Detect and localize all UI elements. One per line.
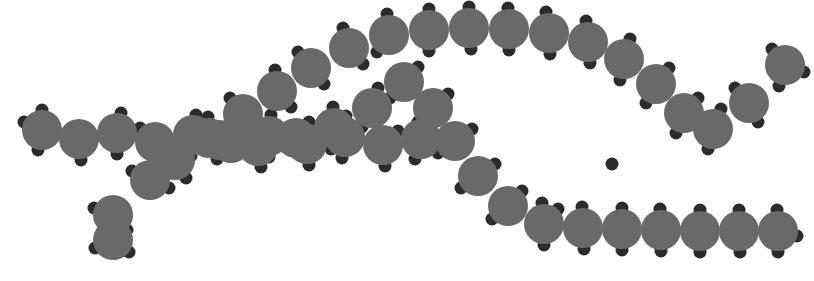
carbon-atom	[568, 22, 608, 62]
carbon-atom	[291, 48, 331, 88]
carbon-atom	[758, 211, 798, 251]
molecule-canvas	[0, 0, 814, 281]
molecular-model-svg	[0, 0, 814, 281]
carbon-atom	[729, 83, 769, 123]
carbon-atom	[719, 211, 759, 251]
carbon-atom	[636, 64, 676, 104]
carbon-atom	[449, 8, 489, 48]
carbon-atom	[97, 113, 137, 153]
hydrogen-atom	[606, 158, 619, 171]
carbon-atom	[93, 220, 133, 260]
carbon-atom	[155, 140, 195, 180]
carbon-atom	[604, 39, 644, 79]
carbon-atom	[641, 210, 681, 250]
carbon-atom	[524, 204, 564, 244]
carbon-atom	[363, 125, 403, 165]
carbon-atom	[529, 13, 569, 53]
carbon-atom	[59, 119, 99, 159]
carbon-atom	[458, 156, 498, 196]
carbon-atom	[563, 208, 603, 248]
carbon-atom	[238, 126, 278, 166]
carbon-atom	[369, 15, 409, 55]
carbon-atom	[352, 88, 392, 128]
carbon-atom	[257, 71, 297, 111]
carbon-atom	[409, 10, 449, 50]
carbon-atom	[489, 9, 529, 49]
carbon-atom	[413, 88, 453, 128]
carbon-atom	[22, 110, 62, 150]
carbon-atom	[488, 186, 528, 226]
carbon-atom	[693, 109, 733, 149]
carbon-atom	[200, 120, 240, 160]
carbon-atom	[680, 211, 720, 251]
carbon-atom	[314, 108, 354, 148]
carbon-atom	[329, 28, 369, 68]
carbon-atom	[765, 45, 805, 85]
carbon-atom	[435, 121, 475, 161]
carbon-atom	[276, 118, 316, 158]
carbon-atom	[602, 209, 642, 249]
